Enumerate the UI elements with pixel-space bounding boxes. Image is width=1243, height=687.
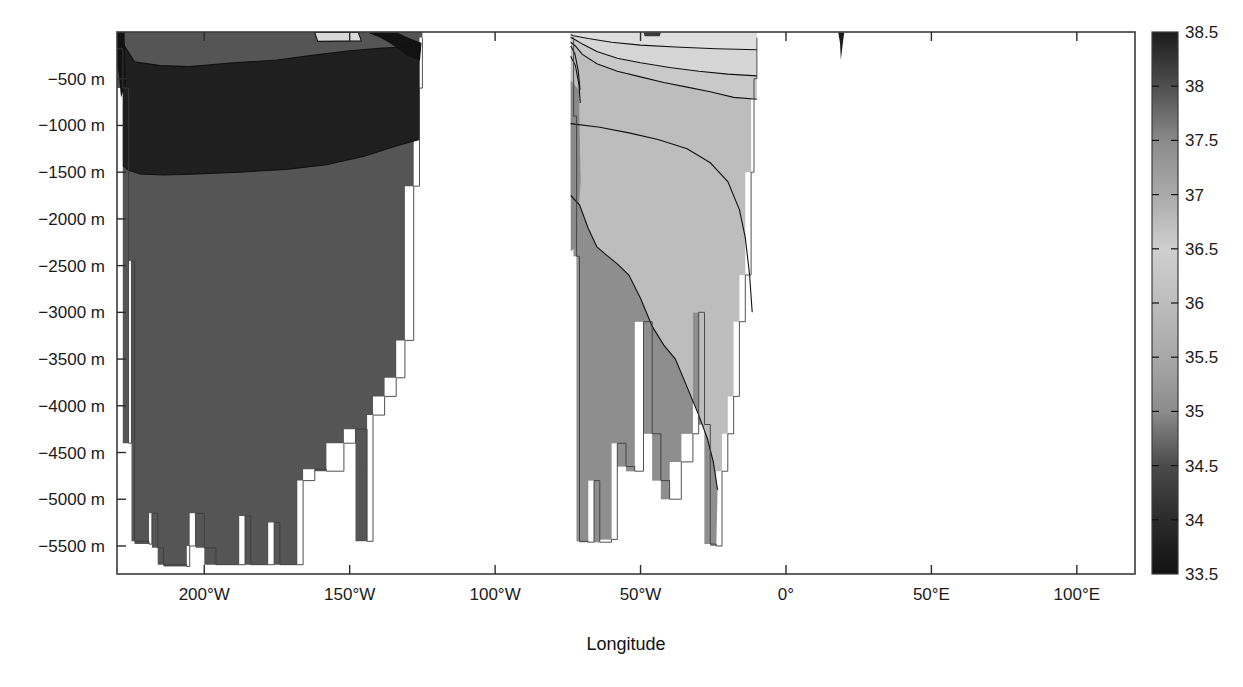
colorbar-tick-label: 35.5 — [1185, 348, 1218, 367]
y-axis-tick-label: −4000 m — [38, 397, 105, 416]
figure-root: −500 m−1000 m−1500 m−2000 m−2500 m−3000 … — [0, 0, 1243, 687]
x-axis-tick-label: 50°E — [913, 585, 950, 604]
y-axis-tick-label: −1500 m — [38, 163, 105, 182]
pacific-surface-light-patch — [315, 33, 362, 42]
x-axis-title: Longitude — [586, 634, 665, 654]
colorbar-tick-label: 33.5 — [1185, 565, 1218, 584]
colorbar-tick-label: 35 — [1185, 402, 1204, 421]
x-axis-tick-label: 200°W — [179, 585, 230, 604]
x-axis-tick-label: 0° — [778, 585, 794, 604]
colorbar-tick-label: 34.5 — [1185, 457, 1218, 476]
y-axis-tick-label: −4500 m — [38, 444, 105, 463]
atlantic-surface-dark-spot — [643, 32, 660, 36]
colorbar-tick-label: 37.5 — [1185, 131, 1218, 150]
y-axis-tick-label: −2500 m — [38, 257, 105, 276]
y-axis-tick-label: −5500 m — [38, 537, 105, 556]
contour-plot-svg: −500 m−1000 m−1500 m−2000 m−2500 m−3000 … — [0, 0, 1243, 687]
x-axis-tick-label: 100°W — [470, 585, 521, 604]
y-axis-tick-label: −500 m — [48, 70, 105, 89]
y-axis-tick-label: −1000 m — [38, 116, 105, 135]
y-axis-tick-label: −3000 m — [38, 303, 105, 322]
colorbar-tick-label: 38.5 — [1185, 23, 1218, 42]
y-axis-tick-label: −5000 m — [38, 490, 105, 509]
colorbar-tick-label: 38 — [1185, 77, 1204, 96]
colorbar-tick-label: 36 — [1185, 294, 1204, 313]
y-axis-tick-label: −2000 m — [38, 210, 105, 229]
x-axis-tick-label: 50°W — [620, 585, 662, 604]
x-axis-tick-label: 150°W — [324, 585, 375, 604]
colorbar-tick-label: 36.5 — [1185, 240, 1218, 259]
colorbar-tick-label: 34 — [1185, 511, 1204, 530]
x-axis-tick-label: 100°E — [1054, 585, 1101, 604]
colorbar-tick-label: 37 — [1185, 186, 1204, 205]
y-axis-tick-label: −3500 m — [38, 350, 105, 369]
